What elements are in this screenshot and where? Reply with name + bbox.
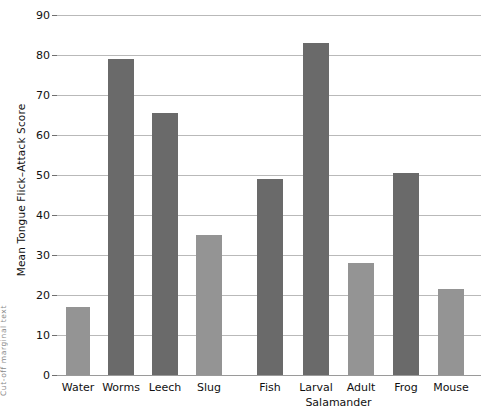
y-tick-label-90: 90 — [36, 10, 50, 21]
y-tick-mark-70 — [52, 95, 57, 96]
y-tick-label-30: 30 — [36, 250, 50, 261]
bar-frog — [393, 173, 419, 375]
y-tick-label-20: 20 — [36, 290, 50, 301]
x-tick-label-larval: Larval — [299, 382, 333, 395]
bar-worms — [108, 59, 134, 375]
bar-leech — [152, 113, 178, 375]
x-tick-label-slug: Slug — [197, 382, 221, 395]
y-tick-mark-90 — [52, 15, 57, 16]
y-tick-mark-80 — [52, 55, 57, 56]
bar-chart: Cut-off marginal text Mean Tongue Flick–… — [0, 0, 481, 414]
x-tick-label-frog: Frog — [394, 382, 418, 395]
y-tick-mark-30 — [52, 255, 57, 256]
y-tick-label-0: 0 — [43, 370, 50, 381]
x-tick-label-adult: Adult — [347, 382, 376, 395]
x-tick-label-fish: Fish — [259, 382, 280, 395]
y-axis-title-text: Mean Tongue Flick–Attack Score — [15, 104, 27, 277]
bar-adult — [348, 263, 374, 375]
y-tick-mark-40 — [52, 215, 57, 216]
y-tick-label-60: 60 — [36, 130, 50, 141]
y-tick-label-10: 10 — [36, 330, 50, 341]
y-tick-mark-60 — [52, 135, 57, 136]
bar-slug — [196, 235, 222, 375]
axis-baseline — [57, 375, 481, 376]
x-tick-label-worms: Worms — [102, 382, 140, 395]
y-tick-mark-10 — [52, 335, 57, 336]
gridline-80 — [57, 55, 481, 56]
y-axis-title: Mean Tongue Flick–Attack Score — [10, 0, 32, 380]
gridline-90 — [57, 15, 481, 16]
y-tick-label-80: 80 — [36, 50, 50, 61]
x-tick-label-mouse: Mouse — [433, 382, 469, 395]
x-axis-labels: WaterWormsLeechSlugFishLarvalAdultFrogMo… — [57, 382, 481, 414]
plot-area: 0102030405060708090 — [57, 10, 481, 380]
bar-fish — [257, 179, 283, 375]
bar-larval — [303, 43, 329, 375]
bar-mouse — [438, 289, 464, 375]
y-tick-label-50: 50 — [36, 170, 50, 181]
y-tick-label-70: 70 — [36, 90, 50, 101]
y-tick-mark-0 — [52, 375, 57, 376]
x-tick-label-leech: Leech — [149, 382, 182, 395]
x-group-label-salamander: Salamander — [305, 396, 371, 409]
y-tick-mark-50 — [52, 175, 57, 176]
edge-marginalia-text: Cut-off marginal text — [0, 305, 8, 396]
y-tick-mark-20 — [52, 295, 57, 296]
bar-water — [66, 307, 90, 375]
x-tick-label-water: Water — [62, 382, 95, 395]
y-tick-label-40: 40 — [36, 210, 50, 221]
